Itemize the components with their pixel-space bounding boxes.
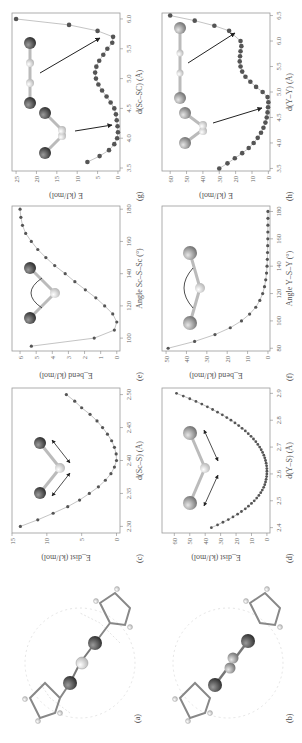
x-axis-label: d(Sc–SC) (Å): [135, 70, 144, 115]
svg-text:6.5: 6.5: [275, 11, 282, 19]
svg-text:60: 60: [171, 538, 178, 545]
chart-c: 2.302.352.402.452.50051015d(Sc–S) (Å)E_d…: [9, 388, 145, 563]
inset-h: [174, 22, 262, 149]
svg-text:0: 0: [113, 356, 120, 359]
y-axis-label: E (kJ/mol): [199, 191, 233, 200]
inset-c: [34, 437, 70, 499]
chart-f: 8010012014016018001020304050Angle Y–S–Y …: [162, 206, 294, 381]
inset-g: [24, 37, 112, 159]
figure: (a) (b) 2.302.352.402.452.50051015d(Sc–S…: [0, 0, 302, 743]
svg-text:3.5: 3.5: [275, 164, 282, 172]
svg-text:20: 20: [224, 356, 231, 363]
panel-label-c: (c): [135, 554, 144, 563]
y-axis-label: E_dist (kJ/mol): [191, 553, 241, 562]
svg-text:2.40: 2.40: [125, 455, 132, 466]
svg-text:160: 160: [275, 234, 282, 244]
svg-text:0: 0: [114, 176, 121, 179]
svg-text:2: 2: [81, 356, 88, 359]
chart-e: 1001201401601800123456Angle Sc–S–Sc (°)E…: [12, 204, 144, 381]
svg-text:140: 140: [275, 261, 282, 271]
svg-text:0: 0: [264, 356, 271, 359]
svg-text:3.5: 3.5: [125, 164, 132, 172]
svg-text:0: 0: [113, 538, 120, 541]
panel-label-e: (e): [135, 372, 144, 381]
svg-text:0: 0: [263, 538, 270, 541]
chart-d: 2.42.52.62.72.82.90102030405060d(Y–S) (Å…: [162, 388, 294, 563]
y-axis-label: E_bend (kJ/mol): [39, 371, 93, 380]
svg-text:2.45: 2.45: [125, 422, 132, 433]
svg-text:2.4: 2.4: [275, 523, 282, 532]
y-axis-label: E_bend (kJ/mol): [189, 371, 243, 380]
x-axis-label: Angle Sc–S–Sc (°): [135, 248, 144, 309]
panel-label-a: (a): [133, 714, 142, 723]
svg-text:2.9: 2.9: [275, 389, 282, 397]
svg-text:40: 40: [183, 356, 190, 363]
svg-text:15: 15: [53, 176, 60, 183]
svg-text:10: 10: [43, 538, 50, 545]
svg-text:6: 6: [17, 355, 24, 359]
svg-text:1: 1: [97, 356, 104, 359]
svg-text:5: 5: [94, 176, 101, 179]
svg-text:2.50: 2.50: [125, 389, 132, 400]
svg-text:2.30: 2.30: [125, 521, 132, 532]
y-axis-label: E_dist (kJ/mol): [41, 553, 91, 562]
svg-text:2.6: 2.6: [275, 469, 282, 478]
svg-text:180: 180: [125, 204, 132, 214]
svg-text:40: 40: [199, 176, 206, 183]
panel-label-g: (g): [135, 191, 144, 201]
x-axis-label: d(Y–S) (Å): [285, 442, 294, 479]
svg-text:2.7: 2.7: [275, 442, 282, 451]
svg-text:50: 50: [163, 356, 170, 363]
svg-text:4.0: 4.0: [275, 139, 282, 147]
svg-text:2.5: 2.5: [275, 497, 282, 505]
panel-label-b: (b): [285, 713, 294, 723]
svg-text:40: 40: [202, 538, 209, 545]
inset-d: [183, 426, 218, 510]
figure-canvas: (a) (b) 2.302.352.402.452.50051015d(Sc–S…: [0, 0, 302, 743]
svg-text:140: 140: [125, 269, 132, 279]
molecule-b: (b): [173, 587, 295, 724]
svg-text:10: 10: [249, 176, 256, 183]
inset-e: [24, 262, 60, 324]
x-axis-label: d(Y–Y) (Å): [285, 73, 294, 111]
svg-text:5.5: 5.5: [275, 62, 282, 70]
svg-text:15: 15: [9, 538, 16, 545]
svg-text:5.5: 5.5: [125, 45, 132, 53]
svg-text:5: 5: [33, 356, 40, 359]
svg-text:2.35: 2.35: [125, 488, 132, 499]
svg-text:80: 80: [275, 345, 282, 352]
svg-text:4.5: 4.5: [275, 113, 282, 121]
svg-text:30: 30: [217, 538, 224, 545]
y-axis-label: E (kJ/mol): [49, 191, 83, 200]
svg-text:10: 10: [244, 356, 251, 363]
panel-label-h: (h): [285, 191, 294, 201]
svg-text:6.0: 6.0: [275, 37, 282, 45]
svg-text:100: 100: [275, 316, 282, 326]
x-axis-label: d(Sc–S) (Å): [135, 441, 144, 480]
svg-text:60: 60: [167, 176, 174, 183]
svg-text:30: 30: [216, 176, 223, 183]
svg-text:10: 10: [74, 176, 81, 183]
panel-label-d: (d): [285, 553, 294, 563]
svg-text:5.0: 5.0: [275, 88, 282, 96]
svg-text:3: 3: [65, 356, 72, 359]
svg-text:4.5: 4.5: [125, 104, 132, 112]
svg-text:120: 120: [125, 301, 132, 311]
panel-label-f: (f): [285, 373, 294, 381]
svg-text:50: 50: [186, 538, 193, 545]
svg-text:30: 30: [203, 356, 210, 363]
svg-text:5.0: 5.0: [125, 75, 132, 83]
svg-text:20: 20: [233, 538, 240, 545]
svg-text:5: 5: [78, 538, 85, 541]
svg-text:4: 4: [49, 355, 56, 359]
svg-text:6.0: 6.0: [125, 15, 132, 23]
svg-text:180: 180: [275, 207, 282, 217]
svg-text:20: 20: [232, 176, 239, 183]
svg-text:0: 0: [265, 176, 272, 179]
svg-text:25: 25: [13, 176, 20, 183]
svg-text:20: 20: [33, 176, 40, 183]
chart-h: 3.54.04.55.05.56.06.50102030405060d(Y–Y)…: [162, 11, 294, 201]
svg-text:4.0: 4.0: [125, 134, 132, 142]
svg-text:50: 50: [183, 176, 190, 183]
molecule-a: (a): [23, 587, 143, 724]
